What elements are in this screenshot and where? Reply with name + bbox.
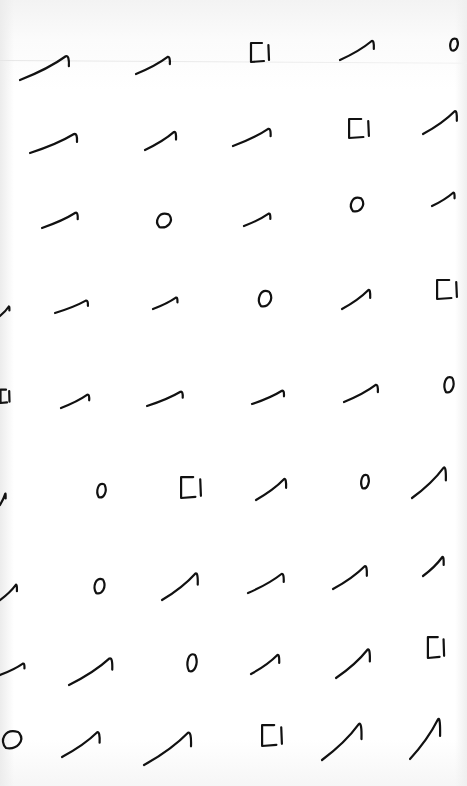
- circle-glyph-icon: [96, 482, 107, 498]
- hook-glyph-icon: [322, 722, 364, 760]
- circle-glyph-icon: [360, 473, 370, 489]
- circle-glyph-icon: [443, 375, 455, 393]
- hook-glyph-icon: [244, 212, 272, 225]
- hook-glyph-icon: [61, 394, 91, 408]
- hook-glyph-icon: [153, 295, 179, 307]
- hook-glyph-icon: [340, 40, 376, 60]
- square-glyph-icon: [180, 476, 202, 498]
- hook-glyph-icon: [248, 573, 286, 593]
- hook-glyph-icon: [0, 491, 6, 503]
- hook-glyph-icon: [55, 299, 90, 312]
- hook-glyph-icon: [233, 128, 273, 146]
- hook-glyph-icon: [252, 390, 286, 404]
- hook-glyph-icon: [344, 384, 380, 402]
- hook-glyph-icon: [333, 565, 369, 589]
- hook-glyph-icon: [147, 391, 185, 406]
- square-glyph-icon: [261, 724, 283, 746]
- square-glyph-icon: [348, 118, 370, 138]
- hook-glyph-icon: [432, 192, 456, 206]
- circle-glyph-icon: [257, 289, 273, 307]
- hook-glyph-icon: [256, 478, 288, 500]
- circle-glyph-icon: [186, 652, 198, 672]
- hook-glyph-icon: [412, 466, 448, 498]
- hook-glyph-icon: [336, 648, 372, 678]
- hook-glyph-icon: [0, 584, 18, 600]
- circle-glyph-icon: [0, 729, 24, 749]
- hook-glyph-icon: [20, 55, 72, 80]
- hook-glyph-icon: [62, 731, 102, 757]
- hook-glyph-icon: [342, 289, 372, 309]
- circle-glyph-icon: [349, 196, 365, 212]
- hook-glyph-icon: [410, 717, 442, 759]
- hook-glyph-icon: [423, 556, 445, 576]
- square-glyph-icon: [436, 279, 458, 299]
- hook-glyph-icon: [30, 133, 80, 153]
- hook-glyph-icon: [0, 661, 26, 673]
- square-glyph-icon: [250, 42, 270, 62]
- hook-glyph-icon: [251, 654, 281, 674]
- square-glyph-icon: [427, 636, 445, 658]
- hook-glyph-icon: [145, 131, 178, 150]
- hook-glyph-icon: [144, 731, 194, 765]
- hook-glyph-icon: [423, 110, 459, 134]
- circle-glyph-icon: [93, 577, 106, 594]
- hook-glyph-icon: [162, 572, 200, 600]
- square-glyph-icon: [0, 389, 10, 403]
- hook-glyph-icon: [69, 657, 115, 685]
- circle-glyph-icon: [155, 212, 173, 228]
- hook-glyph-icon: [0, 302, 10, 312]
- hook-glyph-icon: [42, 212, 80, 228]
- circle-glyph-icon: [449, 37, 459, 51]
- glyph-sheet: [0, 0, 467, 786]
- hook-glyph-icon: [136, 56, 172, 74]
